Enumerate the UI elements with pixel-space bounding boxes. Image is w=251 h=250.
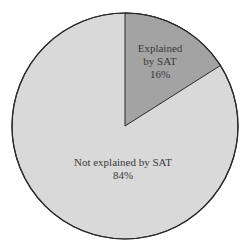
label-explained-pct: 16% bbox=[150, 68, 170, 80]
label-not-explained-pct: 84% bbox=[113, 169, 133, 181]
pie-chart: Explained by SAT 16% Not explained by SA… bbox=[0, 0, 251, 250]
label-explained-line1: Explained bbox=[138, 42, 183, 54]
label-not-explained: Not explained by SAT bbox=[74, 156, 172, 168]
label-explained-line2: by SAT bbox=[143, 55, 177, 67]
